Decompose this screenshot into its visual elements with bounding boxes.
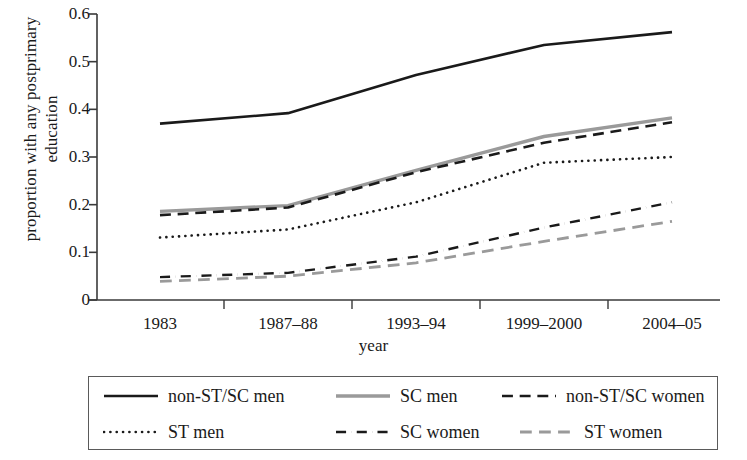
- chart-legend: non-ST/SC menSC mennon-ST/SC women ST me…: [88, 376, 718, 450]
- data-series-group: [160, 32, 672, 281]
- chart-figure: proportion with any postprimary educatio…: [0, 0, 747, 460]
- legend-label: ST women: [584, 423, 662, 441]
- x-tick-label: 1993–94: [386, 315, 446, 332]
- series-line: [160, 32, 672, 124]
- legend-item: ST women: [519, 413, 662, 450]
- legend-label: SC women: [400, 423, 480, 441]
- legend-label: SC men: [400, 387, 458, 405]
- legend-label: non-ST/SC women: [566, 387, 705, 405]
- x-tick-label: 2004–05: [642, 315, 702, 332]
- legend-item: SC women: [335, 413, 480, 450]
- legend-item: non-ST/SC women: [501, 377, 705, 414]
- x-tick-label: 1983: [143, 315, 177, 332]
- legend-item: SC men: [335, 377, 458, 414]
- series-line: [160, 202, 672, 277]
- series-line: [160, 118, 672, 211]
- x-axis-label: year: [0, 336, 747, 356]
- y-tick-marks: [89, 14, 97, 300]
- legend-swatch-sc-women: [335, 425, 391, 439]
- legend-label: non-ST/SC men: [168, 387, 285, 405]
- legend-swatch-non-st-sc-men: [103, 389, 159, 403]
- legend-swatch-st-women: [519, 425, 575, 439]
- x-tick-marks: [224, 300, 608, 309]
- legend-swatch-st-men: [103, 425, 159, 439]
- x-tick-label: 1987–88: [258, 315, 318, 332]
- legend-item: ST men: [103, 413, 224, 450]
- x-axis-tick-labels: 19831987–881993–941999–20002004–05: [0, 309, 747, 333]
- x-tick-label: 1999–2000: [506, 315, 583, 332]
- axis-lines: [89, 14, 720, 300]
- plot-area: [0, 0, 747, 340]
- legend-label: ST men: [168, 423, 224, 441]
- series-line: [160, 221, 672, 281]
- legend-item: non-ST/SC men: [103, 377, 285, 414]
- legend-swatch-sc-men: [335, 389, 391, 403]
- legend-row: non-ST/SC menSC mennon-ST/SC women: [89, 377, 717, 414]
- legend-row: ST menSC womenST women: [89, 413, 717, 450]
- legend-swatch-non-st-sc-women: [501, 389, 557, 403]
